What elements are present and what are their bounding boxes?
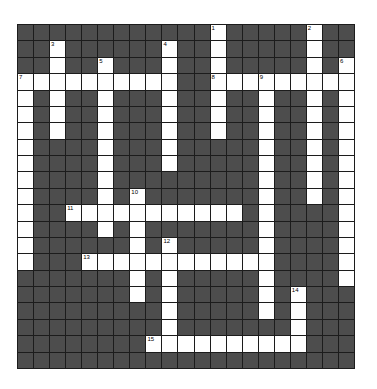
open-cell[interactable]: [259, 222, 274, 237]
open-cell[interactable]: [243, 74, 258, 89]
open-cell[interactable]: [18, 222, 33, 237]
open-cell[interactable]: [162, 320, 177, 335]
open-cell[interactable]: 5: [98, 58, 113, 73]
open-cell[interactable]: 8: [211, 74, 226, 89]
open-cell[interactable]: [146, 254, 161, 269]
open-cell[interactable]: [162, 156, 177, 171]
open-cell[interactable]: 3: [50, 41, 65, 56]
open-cell[interactable]: [259, 140, 274, 155]
open-cell[interactable]: [162, 123, 177, 138]
open-cell[interactable]: [130, 287, 145, 302]
open-cell[interactable]: [178, 254, 193, 269]
open-cell[interactable]: [227, 205, 242, 220]
open-cell[interactable]: [114, 254, 129, 269]
open-cell[interactable]: [130, 74, 145, 89]
open-cell[interactable]: [259, 156, 274, 171]
open-cell[interactable]: [98, 91, 113, 106]
open-cell[interactable]: [211, 41, 226, 56]
open-cell[interactable]: [339, 238, 354, 253]
open-cell[interactable]: [211, 58, 226, 73]
open-cell[interactable]: [195, 205, 210, 220]
open-cell[interactable]: [162, 271, 177, 286]
open-cell[interactable]: [146, 74, 161, 89]
open-cell[interactable]: [18, 238, 33, 253]
open-cell[interactable]: [18, 172, 33, 187]
open-cell[interactable]: [227, 336, 242, 351]
open-cell[interactable]: [307, 74, 322, 89]
open-cell[interactable]: 10: [130, 189, 145, 204]
open-cell[interactable]: [211, 336, 226, 351]
open-cell[interactable]: [259, 107, 274, 122]
open-cell[interactable]: [339, 91, 354, 106]
open-cell[interactable]: [339, 156, 354, 171]
open-cell[interactable]: [339, 189, 354, 204]
open-cell[interactable]: 7: [18, 74, 33, 89]
open-cell[interactable]: [98, 205, 113, 220]
open-cell[interactable]: [259, 238, 274, 253]
open-cell[interactable]: [243, 336, 258, 351]
open-cell[interactable]: [339, 254, 354, 269]
open-cell[interactable]: [339, 140, 354, 155]
open-cell[interactable]: [307, 172, 322, 187]
open-cell[interactable]: [307, 91, 322, 106]
open-cell[interactable]: [339, 74, 354, 89]
open-cell[interactable]: [98, 74, 113, 89]
open-cell[interactable]: [211, 91, 226, 106]
open-cell[interactable]: [66, 74, 81, 89]
open-cell[interactable]: [98, 254, 113, 269]
open-cell[interactable]: [339, 205, 354, 220]
open-cell[interactable]: [162, 58, 177, 73]
open-cell[interactable]: [275, 336, 290, 351]
open-cell[interactable]: [307, 189, 322, 204]
open-cell[interactable]: [34, 74, 49, 89]
open-cell[interactable]: 6: [339, 58, 354, 73]
open-cell[interactable]: [211, 205, 226, 220]
open-cell[interactable]: [98, 156, 113, 171]
open-cell[interactable]: [82, 205, 97, 220]
open-cell[interactable]: [259, 91, 274, 106]
open-cell[interactable]: [162, 74, 177, 89]
open-cell[interactable]: [146, 205, 161, 220]
open-cell[interactable]: [259, 172, 274, 187]
open-cell[interactable]: 1: [211, 25, 226, 40]
open-cell[interactable]: [130, 238, 145, 253]
open-cell[interactable]: [50, 74, 65, 89]
open-cell[interactable]: [162, 287, 177, 302]
open-cell[interactable]: [162, 107, 177, 122]
open-cell[interactable]: 15: [146, 336, 161, 351]
open-cell[interactable]: [307, 156, 322, 171]
open-cell[interactable]: [178, 205, 193, 220]
open-cell[interactable]: [339, 123, 354, 138]
open-cell[interactable]: [98, 222, 113, 237]
open-cell[interactable]: [259, 271, 274, 286]
open-cell[interactable]: 12: [162, 238, 177, 253]
open-cell[interactable]: [211, 254, 226, 269]
open-cell[interactable]: 13: [82, 254, 97, 269]
open-cell[interactable]: [98, 140, 113, 155]
open-cell[interactable]: [339, 222, 354, 237]
open-cell[interactable]: [162, 336, 177, 351]
open-cell[interactable]: [18, 123, 33, 138]
open-cell[interactable]: [162, 91, 177, 106]
open-cell[interactable]: [50, 107, 65, 122]
open-cell[interactable]: [50, 123, 65, 138]
open-cell[interactable]: [291, 74, 306, 89]
open-cell[interactable]: [291, 336, 306, 351]
open-cell[interactable]: 4: [162, 41, 177, 56]
open-cell[interactable]: [227, 74, 242, 89]
open-cell[interactable]: [195, 336, 210, 351]
open-cell[interactable]: [18, 156, 33, 171]
open-cell[interactable]: [275, 74, 290, 89]
open-cell[interactable]: [18, 107, 33, 122]
open-cell[interactable]: [162, 140, 177, 155]
open-cell[interactable]: [211, 123, 226, 138]
open-cell[interactable]: [18, 91, 33, 106]
open-cell[interactable]: [259, 303, 274, 318]
open-cell[interactable]: [211, 107, 226, 122]
open-cell[interactable]: [259, 287, 274, 302]
open-cell[interactable]: [339, 107, 354, 122]
open-cell[interactable]: [307, 58, 322, 73]
open-cell[interactable]: [259, 205, 274, 220]
open-cell[interactable]: [259, 189, 274, 204]
open-cell[interactable]: [50, 58, 65, 73]
